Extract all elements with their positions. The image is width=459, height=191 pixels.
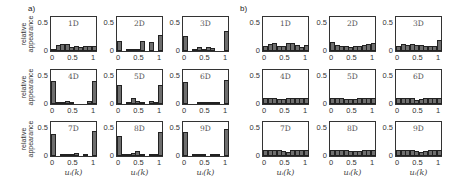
histogram-bar xyxy=(140,102,145,104)
histogram-bar xyxy=(117,85,122,104)
subplot-a-4D: 4D xyxy=(50,69,97,105)
histogram-bar xyxy=(158,85,163,104)
x-axis-label: uᵢ(k) xyxy=(116,168,163,177)
subplot-b-2D: 2D xyxy=(329,16,376,52)
histogram-bar xyxy=(117,41,122,51)
y-tick-label: 0.5 xyxy=(311,123,327,132)
subplot-b-3D: 3D xyxy=(395,16,442,52)
histogram-bar xyxy=(92,46,97,51)
x-tick-label: 1 xyxy=(217,53,233,62)
x-tick-label: 0 xyxy=(110,158,126,167)
histogram-bar xyxy=(140,154,145,156)
x-tick-label: 0 xyxy=(323,158,339,167)
x-tick-label: 1 xyxy=(430,158,446,167)
bars xyxy=(330,70,375,104)
x-tick-label: 0 xyxy=(389,158,405,167)
histogram-bar xyxy=(92,81,97,104)
histogram-bar xyxy=(51,81,56,104)
x-tick-label: 0.5 xyxy=(410,158,426,167)
histogram-bar xyxy=(140,41,145,51)
histogram-bar xyxy=(437,150,442,156)
y-tick-label: 0.5 xyxy=(244,18,260,27)
bars xyxy=(51,70,96,104)
y-tick-label: 0.5 xyxy=(32,71,48,80)
x-axis-label: uᵢ(k) xyxy=(182,168,229,177)
x-tick-label: 0.5 xyxy=(131,106,147,115)
bars xyxy=(396,122,441,156)
histogram-bar xyxy=(210,48,215,51)
x-tick-label: 0.5 xyxy=(65,158,81,167)
subplot-b-5D: 5D xyxy=(329,69,376,105)
panel-label: b) xyxy=(240,4,247,13)
y-tick-label: 0.5 xyxy=(244,71,260,80)
x-tick-label: 0.5 xyxy=(277,53,293,62)
subplot-a-9D: 9D xyxy=(182,121,229,157)
x-axis-label: uᵢ(k) xyxy=(329,168,376,177)
bars xyxy=(183,70,228,104)
x-tick-label: 0.5 xyxy=(131,53,147,62)
bars xyxy=(117,17,162,51)
y-tick-label: 0.5 xyxy=(98,71,114,80)
x-tick-label: 0 xyxy=(323,53,339,62)
x-tick-label: 0 xyxy=(256,53,272,62)
x-tick-label: 0 xyxy=(389,106,405,115)
y-tick-label: 0.5 xyxy=(164,71,180,80)
histogram-bar xyxy=(215,102,220,104)
bars xyxy=(330,17,375,51)
y-tick-label: 0.5 xyxy=(377,71,393,80)
x-tick-label: 0 xyxy=(256,158,272,167)
histogram-bar xyxy=(224,129,229,156)
histogram-bar xyxy=(183,36,188,51)
histogram-bar xyxy=(92,131,97,156)
subplot-a-7D: 7D xyxy=(50,121,97,157)
x-tick-label: 1 xyxy=(217,158,233,167)
x-tick-label: 0.5 xyxy=(410,106,426,115)
y-tick-label: 0.5 xyxy=(98,18,114,27)
x-tick-label: 0 xyxy=(44,106,60,115)
y-tick-label: 0.5 xyxy=(377,18,393,27)
x-tick-label: 0 xyxy=(110,106,126,115)
y-tick-label: 0.5 xyxy=(164,18,180,27)
y-tick-label: 0.5 xyxy=(98,123,114,132)
histogram-bar xyxy=(304,45,309,51)
subplot-a-5D: 5D xyxy=(116,69,163,105)
y-tick-label: 0.5 xyxy=(311,71,327,80)
x-tick-label: 0 xyxy=(256,106,272,115)
bars xyxy=(51,17,96,51)
histogram-bar xyxy=(437,98,442,104)
subplot-b-9D: 9D xyxy=(395,121,442,157)
y-tick-label: 0.5 xyxy=(311,18,327,27)
subplot-a-2D: 2D xyxy=(116,16,163,52)
subplot-a-3D: 3D xyxy=(182,16,229,52)
subplot-b-7D: 7D xyxy=(262,121,309,157)
y-tick-label: 0.5 xyxy=(32,123,48,132)
x-axis-label: uᵢ(k) xyxy=(50,168,97,177)
histogram-bar xyxy=(201,154,206,156)
bars xyxy=(396,17,441,51)
x-tick-label: 0.5 xyxy=(344,53,360,62)
x-tick-label: 0.5 xyxy=(410,53,426,62)
bars xyxy=(183,17,228,51)
histogram-bar xyxy=(437,40,442,51)
histogram-bar xyxy=(304,150,309,156)
subplot-b-8D: 8D xyxy=(329,121,376,157)
histogram-bar xyxy=(158,132,163,156)
histogram-bar xyxy=(183,132,188,156)
histogram-bar xyxy=(371,43,376,52)
y-tick-label: 0.5 xyxy=(244,123,260,132)
histogram-bar xyxy=(117,136,122,156)
histogram-bar xyxy=(224,31,229,51)
histogram-bar xyxy=(215,154,220,156)
x-tick-label: 0 xyxy=(323,106,339,115)
x-tick-label: 0.5 xyxy=(277,158,293,167)
x-tick-label: 0.5 xyxy=(65,106,81,115)
bars xyxy=(330,122,375,156)
x-tick-label: 0 xyxy=(44,158,60,167)
x-tick-label: 0.5 xyxy=(131,158,147,167)
subplot-a-1D: 1D xyxy=(50,16,97,52)
subplot-a-8D: 8D xyxy=(116,121,163,157)
x-tick-label: 0.5 xyxy=(277,106,293,115)
bars xyxy=(263,70,308,104)
subplot-b-4D: 4D xyxy=(262,69,309,105)
x-tick-label: 0.5 xyxy=(197,53,213,62)
